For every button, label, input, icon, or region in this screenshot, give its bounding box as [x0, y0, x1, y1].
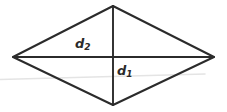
label-d2: d2 [75, 37, 91, 50]
label-d2-subscript: 2 [84, 42, 90, 52]
rhombus-figure [0, 0, 227, 112]
label-d2-base: d [75, 36, 84, 51]
rhombus-diagram: d2 d1 [0, 0, 227, 112]
label-d1-base: d [117, 63, 126, 78]
label-d1-subscript: 1 [126, 69, 132, 79]
label-d1: d1 [117, 64, 133, 77]
